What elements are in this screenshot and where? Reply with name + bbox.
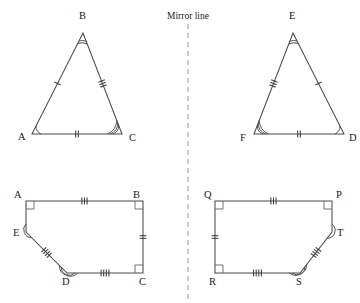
pentagon-pqrst-vertex-S-label: S bbox=[296, 276, 302, 287]
pentagon-abcde-vertex-C-right-angle bbox=[135, 265, 143, 273]
triangle-def-vertex-E-arc bbox=[290, 40, 297, 41]
pentagon-pqrst-vertex-Q-label: Q bbox=[204, 189, 212, 200]
pentagon-pqrst-vertex-P-label: P bbox=[336, 189, 342, 200]
pentagon-abcde-vertex-C-label: C bbox=[139, 276, 146, 287]
pentagon-pqrst-vertex-P-right-angle bbox=[324, 201, 332, 209]
triangle-abc-vertex-B-arc bbox=[78, 43, 88, 44]
triangle-def bbox=[254, 33, 344, 134]
triangle-def-vertex-D-label: D bbox=[349, 132, 357, 143]
pentagon-abcde-vertex-E-label: E bbox=[13, 227, 19, 238]
pentagon-pqrst-vertex-R-right-angle bbox=[215, 265, 223, 273]
pentagon-pqrst-vertex-T-label: T bbox=[337, 227, 344, 238]
pentagon-abcde-vertex-A-label: A bbox=[14, 189, 22, 200]
triangle-def-vertex-E-label: E bbox=[289, 10, 295, 21]
triangle-abc-vertex-B-label: B bbox=[79, 10, 86, 21]
triangle-abc-vertex-B-arc bbox=[79, 40, 86, 41]
pentagon-abcde-vertex-B-label: B bbox=[133, 189, 140, 200]
pentagon-abcde-vertex-E-arc bbox=[24, 224, 32, 238]
triangle-def-vertex-F-label: F bbox=[240, 132, 246, 143]
triangle-abc-vertex-C-label: C bbox=[129, 132, 136, 143]
pentagon-pqrst bbox=[215, 201, 332, 273]
pentagon-abcde-vertex-A-right-angle bbox=[26, 201, 34, 209]
triangle-abc-vertex-A-label: A bbox=[18, 131, 26, 142]
pentagon-abcde bbox=[26, 201, 143, 273]
pentagon-pqrst-vertex-R-label: R bbox=[209, 276, 216, 287]
pentagon-pqrst-vertex-Q-right-angle bbox=[215, 201, 223, 209]
geometry-figure: ABCDEFABCDEPQRST Mirror line bbox=[0, 0, 360, 303]
triangle-def-vertex-E-arc bbox=[289, 43, 299, 44]
pentagon-abcde-vertex-D-label: D bbox=[62, 276, 70, 287]
triangle-def-vertex-D-arc bbox=[335, 126, 340, 134]
triangle-abc-vertex-A-arc bbox=[36, 126, 41, 134]
triangle-abc-vertex-C-arc bbox=[107, 120, 116, 134]
geometry-canvas: ABCDEFABCDEPQRST bbox=[0, 0, 360, 303]
pentagon-abcde-vertex-B-right-angle bbox=[135, 201, 143, 209]
triangle-def-vertex-F-arc bbox=[259, 120, 268, 134]
triangle-abc bbox=[32, 33, 122, 134]
